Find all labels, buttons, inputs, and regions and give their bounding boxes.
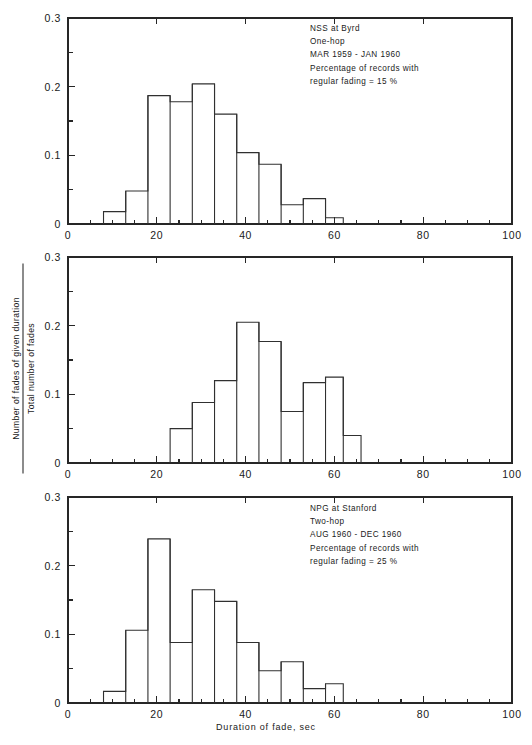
y-tick-label: 0 (55, 697, 61, 709)
fade-duration-histogram-figure: 02040608010000.10.20.3 NSS at Byrd One-h… (0, 0, 532, 745)
y-axis-label-denominator: Total number of fades (24, 264, 37, 474)
annotation-line: NSS at Byrd (310, 22, 419, 35)
chart-panel-ushuia: 02040608010000.10.20.3 NSS at Ushuia One… (0, 479, 532, 745)
y-tick-label: 0.2 (45, 81, 61, 93)
y-tick-label: 0.2 (45, 560, 61, 572)
plot-area-byrd: 02040608010000.10.20.3 (0, 0, 532, 250)
y-tick-label: 0.3 (45, 251, 61, 263)
y-tick-label: 0 (55, 218, 61, 230)
y-tick-label: 0.1 (45, 628, 61, 640)
annotation-byrd: NSS at Byrd One-hop MAR 1959 - JAN 1960 … (310, 22, 419, 88)
histogram-outline (170, 322, 361, 463)
x-tick-label: 20 (150, 708, 163, 720)
annotation-line: MAR 1959 - JAN 1960 (310, 48, 419, 61)
x-tick-label: 0 (65, 708, 71, 720)
annotation-line: Percentage of records with (310, 62, 419, 75)
plot-frame (68, 497, 512, 703)
chart-panel-byrd: 02040608010000.10.20.3 NSS at Byrd One-h… (0, 0, 532, 250)
y-tick-label: 0 (55, 457, 61, 469)
y-tick-label: 0.2 (45, 320, 61, 332)
chart-panel-stanford: 02040608010000.10.20.3 NPG at Stanford T… (0, 239, 532, 489)
histogram-outline (104, 84, 344, 224)
plot-frame (68, 257, 512, 463)
x-tick-label: 40 (239, 708, 252, 720)
x-axis-label: Duration of fade, sec (0, 722, 532, 732)
plot-area-stanford: 02040608010000.10.20.3 (0, 239, 532, 489)
y-tick-label: 0.1 (45, 388, 61, 400)
histogram-outline (104, 539, 344, 703)
x-tick-label: 60 (328, 708, 341, 720)
x-tick-label: 100 (502, 708, 521, 720)
y-tick-label: 0.3 (45, 491, 61, 503)
y-axis-label: Number of fades of given duration Total … (10, 264, 37, 474)
annotation-line: One-hop (310, 35, 419, 48)
y-tick-label: 0.3 (45, 12, 61, 24)
annotation-line: regular fading = 15 % (310, 75, 419, 88)
plot-area-ushuia: 02040608010000.10.20.3 (0, 479, 532, 729)
y-tick-label: 0.1 (45, 149, 61, 161)
x-tick-label: 80 (417, 708, 430, 720)
y-axis-label-numerator: Number of fades of given duration (10, 264, 24, 474)
plot-frame (68, 18, 512, 224)
